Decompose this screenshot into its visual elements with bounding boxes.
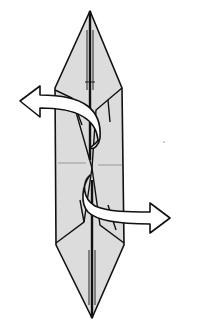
- speck: [163, 141, 165, 143]
- origami-diagram: [0, 0, 202, 336]
